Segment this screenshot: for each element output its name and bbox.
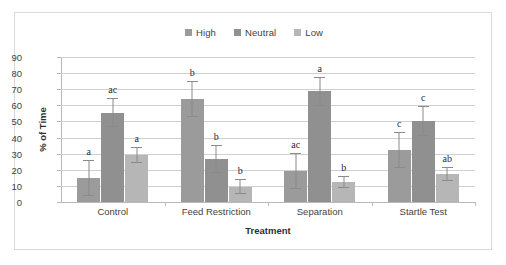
error-bar-cap-upper [290,153,301,154]
error-bar-cap-upper [211,145,222,146]
bar-slot: ab [436,57,459,202]
significance-label: b [341,162,346,173]
significance-label: c [421,92,425,103]
error-bar-cap-upper [187,81,198,82]
y-tick-label: 90 [0,52,22,63]
y-tick-label: 60 [0,100,22,111]
plot-area: 9080706050403020100aacaControlbbbFeed Re… [61,57,475,202]
error-bar [319,77,320,106]
y-tick-label: 80 [0,68,22,79]
error-bar-cap-lower [290,188,301,189]
bar-slot: a [308,57,331,202]
bar-group-control: aaca [61,57,165,202]
bar-high[interactable]: c [388,150,411,202]
error-bar-cap-upper [83,160,94,161]
significance-label: ac [291,139,300,150]
legend-label: High [196,27,216,38]
error-bar-cap-upper [442,167,453,168]
error-bar-cap-lower [235,193,246,194]
error-bar-cap-lower [107,126,118,127]
significance-label: a [135,133,139,144]
x-tick-label: Control [97,206,128,217]
x-tick-label: Startle Test [400,206,447,217]
significance-label: b [190,67,195,78]
bar-slot: a [77,57,100,202]
bar-slot: ac [284,57,307,202]
y-tick-mark [57,202,61,203]
legend-swatch-icon [185,29,192,36]
y-tick-label: 10 [0,180,22,191]
significance-label: c [397,118,401,129]
error-bar-cap-lower [442,180,453,181]
bar-slot: c [412,57,435,202]
bar-slot: b [181,57,204,202]
bar-high[interactable]: a [77,178,100,202]
bar-neutral[interactable]: ac [101,113,124,202]
y-tick-label: 0 [0,197,22,208]
bar-slot: a [125,57,148,202]
y-tick-label: 30 [0,148,22,159]
legend-label: Neutral [245,27,276,38]
bar-neutral[interactable]: c [412,121,435,202]
significance-label: ab [443,153,452,164]
y-tick-label: 70 [0,84,22,95]
bar-group-feed-restriction: bbb [165,57,269,202]
error-bar [240,179,241,194]
error-bar-cap-lower [418,135,429,136]
bar-group-separation: acab [268,57,372,202]
error-bar-cap-upper [338,176,349,177]
x-axis-title: Treatment [61,225,475,236]
error-bar-cap-lower [314,105,325,106]
error-bar-cap-upper [314,77,325,78]
x-axis-group-separator [268,202,269,206]
error-bar-cap-lower [131,162,142,163]
significance-label: ac [108,84,117,95]
bar-low[interactable]: a [125,155,148,202]
legend-entry-high[interactable]: High [185,27,216,38]
chart-legend: HighNeutralLow [15,27,493,38]
error-bar-cap-upper [418,106,429,107]
significance-label: a [87,146,91,157]
error-bar [216,145,217,173]
error-bar [112,98,113,127]
bar-slot: ac [101,57,124,202]
bar-slot: b [229,57,252,202]
y-tick-label: 40 [0,132,22,143]
bar-slot: c [388,57,411,202]
y-tick-label: 50 [0,116,22,127]
bar-low[interactable]: b [332,182,355,202]
error-bar [447,167,448,181]
x-tick-label: Feed Restriction [182,206,251,217]
bar-low[interactable]: b [229,187,252,202]
legend-entry-neutral[interactable]: Neutral [234,27,276,38]
error-bar [295,153,296,188]
error-bar [192,81,193,117]
legend-swatch-icon [294,29,301,36]
error-bar-cap-upper [235,179,246,180]
bar-neutral[interactable]: a [308,91,331,202]
error-bar [343,176,344,188]
error-bar-cap-lower [187,116,198,117]
error-bar [88,160,89,195]
error-bar [399,132,400,168]
significance-label: b [214,131,219,142]
bar-slot: b [205,57,228,202]
y-tick-label: 20 [0,164,22,175]
bar-high[interactable]: b [181,99,204,202]
error-bar-cap-lower [394,167,405,168]
bar-group-startle-test: ccab [372,57,476,202]
significance-label: b [238,165,243,176]
error-bar-cap-lower [211,172,222,173]
error-bar [423,106,424,136]
error-bar-cap-lower [338,187,349,188]
x-axis-group-separator [165,202,166,206]
error-bar-cap-upper [107,98,118,99]
bar-slot: b [332,57,355,202]
legend-label: Low [305,27,323,38]
legend-entry-low[interactable]: Low [294,27,323,38]
bar-low[interactable]: ab [436,174,459,202]
bar-neutral[interactable]: b [205,159,228,202]
x-tick-label: Separation [297,206,343,217]
bar-high[interactable]: ac [284,171,307,202]
error-bar-cap-upper [131,147,142,148]
